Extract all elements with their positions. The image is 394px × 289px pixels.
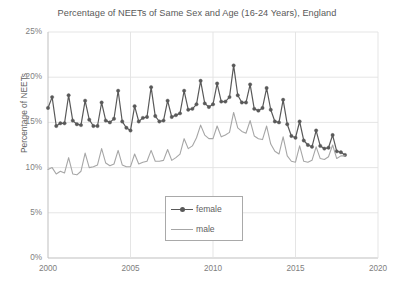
x-tick-label: 2010 bbox=[193, 264, 233, 273]
legend-line-marker-icon bbox=[171, 204, 193, 214]
chart-card: ... Percentage of NEETs of Same Sex and … bbox=[0, 0, 394, 289]
legend-label-male: male bbox=[196, 224, 215, 234]
legend-item-female[interactable]: female bbox=[171, 203, 222, 215]
y-tick-label: 20% bbox=[8, 72, 42, 81]
x-tick-label: 2015 bbox=[276, 264, 316, 273]
y-tick-label: 15% bbox=[8, 117, 42, 126]
y-tick-label: 0% bbox=[8, 253, 42, 262]
y-tick-label: 10% bbox=[8, 163, 42, 172]
x-tick-label: 2000 bbox=[28, 264, 68, 273]
legend-label-female: female bbox=[196, 204, 222, 214]
legend-line-icon bbox=[171, 224, 193, 234]
x-tick-label: 2005 bbox=[111, 264, 151, 273]
y-tick-label: 25% bbox=[8, 27, 42, 36]
chart-legend: female male bbox=[165, 196, 243, 241]
y-tick-label: 5% bbox=[8, 208, 42, 217]
legend-item-male[interactable]: male bbox=[171, 223, 215, 235]
line-chart-plot bbox=[0, 0, 394, 289]
x-tick-label: 2020 bbox=[358, 264, 394, 273]
